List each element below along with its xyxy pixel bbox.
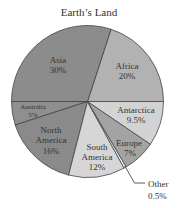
- label-south-america-value: 12%: [89, 162, 106, 172]
- chart-title: Earth’s Land: [61, 6, 118, 18]
- label-antarctica-name: Antarctica: [117, 105, 154, 115]
- label-asia-name: Asia: [50, 55, 67, 65]
- label-africa-name: Africa: [116, 61, 139, 71]
- label-australia-value: 5%: [28, 111, 38, 119]
- label-north-america-line2: America: [36, 135, 67, 145]
- label-south-america-line1: South: [86, 142, 108, 152]
- other-leader-line: [125, 166, 145, 183]
- label-europe-name: Europe: [116, 138, 142, 148]
- label-south-america-line2: America: [82, 152, 113, 162]
- label-antarctica-value: 9.5%: [127, 115, 146, 125]
- label-australia-name: Australia: [20, 103, 47, 111]
- label-other-value: 0.5%: [148, 191, 167, 201]
- label-europe-value: 7%: [124, 148, 137, 158]
- label-other-name: Other: [148, 179, 169, 189]
- label-north-america-line1: North: [41, 125, 62, 135]
- label-asia-value: 30%: [50, 65, 67, 75]
- label-north-america-value: 16%: [43, 146, 60, 156]
- pie-chart: Earth’s Land Asia 30% Africa 20% Antarct…: [0, 0, 180, 208]
- label-africa-value: 20%: [119, 71, 136, 81]
